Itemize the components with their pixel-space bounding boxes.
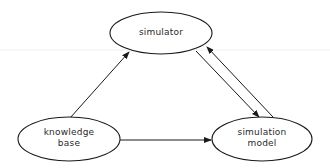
node-text-line: knowledge [19,127,119,138]
node-text-line: simulator [111,27,211,38]
node-label-simulation-model: simulation model [212,127,312,149]
arrow-simulator-to-simulation-model [196,51,259,117]
node-label-knowledge-base: knowledge base [19,127,119,149]
arrow-simulation-model-to-simulator [207,47,273,117]
arrow-knowledge-base-to-simulator [70,52,129,118]
node-text-line: base [19,138,119,149]
diagram-canvas: simulator knowledge base simulation mode… [0,0,330,168]
node-text-line: model [212,138,312,149]
node-text-line: simulation [212,127,312,138]
node-label-simulator: simulator [111,27,211,38]
